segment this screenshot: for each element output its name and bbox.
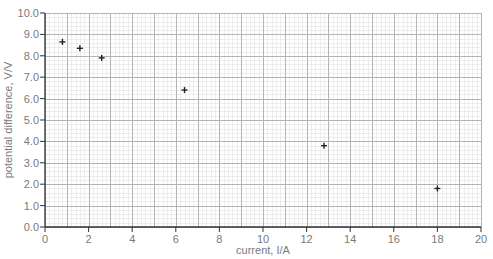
y-axis-ticks: 0.01.02.03.04.05.06.07.08.09.010.0 <box>18 7 45 233</box>
x-tick-label: 8 <box>216 233 222 245</box>
y-tick-label: 2.0 <box>24 178 39 190</box>
x-tick-label: 20 <box>475 233 487 245</box>
scatter-chart: 0.01.02.03.04.05.06.07.08.09.010.0 02468… <box>0 0 493 259</box>
y-tick-label: 0.0 <box>24 221 39 233</box>
x-tick-label: 4 <box>129 233 135 245</box>
data-point-marker <box>77 45 83 51</box>
y-tick-label: 8.0 <box>24 50 39 62</box>
x-axis-ticks: 02468101214161820 <box>42 227 487 245</box>
x-tick-label: 16 <box>388 233 400 245</box>
data-point-marker <box>99 55 105 61</box>
x-tick-label: 12 <box>300 233 312 245</box>
data-point-marker <box>321 143 327 149</box>
y-axis-title: potential difference, V/V <box>2 61 14 178</box>
y-tick-label: 1.0 <box>24 200 39 212</box>
x-tick-label: 6 <box>173 233 179 245</box>
y-tick-label: 3.0 <box>24 157 39 169</box>
major-grid <box>45 13 482 228</box>
x-tick-label: 0 <box>42 233 48 245</box>
y-tick-label: 6.0 <box>24 93 39 105</box>
y-tick-label: 10.0 <box>18 7 39 19</box>
y-tick-label: 4.0 <box>24 135 39 147</box>
data-point-marker <box>182 87 188 93</box>
data-point-marker <box>434 185 440 191</box>
y-tick-label: 7.0 <box>24 71 39 83</box>
x-tick-label: 18 <box>431 233 443 245</box>
data-points <box>59 39 440 192</box>
x-axis-title: current, I/A <box>236 244 290 256</box>
x-tick-label: 2 <box>86 233 92 245</box>
y-tick-label: 5.0 <box>24 114 39 126</box>
x-tick-label: 14 <box>344 233 356 245</box>
y-tick-label: 9.0 <box>24 28 39 40</box>
